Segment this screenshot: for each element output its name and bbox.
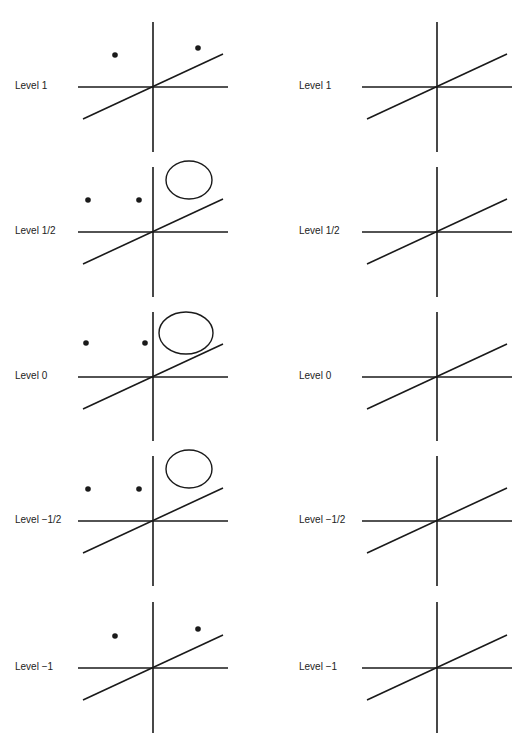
level-label: Level 0	[299, 370, 331, 382]
point-dot	[195, 626, 201, 632]
region-ellipse	[159, 312, 213, 354]
point-dot	[85, 197, 91, 203]
point-dot	[112, 52, 118, 58]
point-dot	[142, 340, 148, 346]
point-dot	[136, 197, 142, 203]
point-dot	[195, 45, 201, 51]
point-dot	[112, 633, 118, 639]
level-label: Level 1	[15, 80, 47, 92]
point-dot	[85, 486, 91, 492]
region-ellipse	[166, 450, 212, 488]
point-dot	[83, 340, 89, 346]
level-diagram: Level 1Level 1/2Level 0Level −1/2Level −…	[0, 0, 531, 748]
level-label: Level 1	[299, 80, 331, 92]
diagram-canvas	[0, 0, 531, 748]
level-label: Level −1/2	[15, 514, 61, 526]
level-label: Level 0	[15, 370, 47, 382]
level-label: Level −1/2	[299, 514, 345, 526]
point-dot	[136, 486, 142, 492]
level-label: Level 1/2	[15, 225, 56, 237]
region-ellipse	[166, 161, 212, 199]
level-label: Level −1	[299, 661, 337, 673]
level-label: Level 1/2	[299, 225, 340, 237]
level-label: Level −1	[15, 661, 53, 673]
